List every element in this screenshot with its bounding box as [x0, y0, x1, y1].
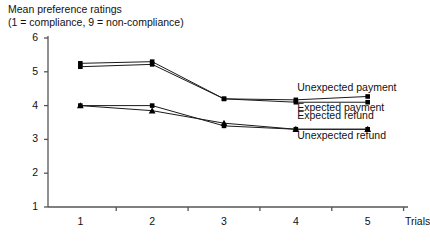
x-tick-label: 3 [214, 215, 234, 227]
series-label-expected-refund: Expected refund [297, 109, 373, 121]
data-point-marker [222, 97, 227, 102]
y-tick-label: 4 [24, 99, 38, 111]
data-point-marker [365, 94, 370, 99]
x-tick-label: 4 [286, 215, 306, 227]
x-tick-label: 2 [142, 215, 162, 227]
data-point-marker [222, 124, 227, 129]
x-tick-label: 5 [358, 215, 378, 227]
data-point-marker [150, 103, 155, 108]
series-label-unexpected-payment: Unexpected payment [297, 81, 396, 93]
y-tick-label: 5 [24, 65, 38, 77]
x-tick-label: 1 [70, 215, 90, 227]
x-axis-title: Trials [405, 215, 430, 227]
data-point-marker [78, 64, 83, 69]
y-tick-label: 1 [24, 200, 38, 212]
series-label-unexpected-refund: Unexpected refund [297, 129, 386, 141]
data-point-marker [150, 62, 155, 67]
y-tick-label: 3 [24, 132, 38, 144]
y-tick-label: 2 [24, 166, 38, 178]
data-point-marker [78, 103, 83, 108]
y-tick-label: 6 [24, 31, 38, 43]
